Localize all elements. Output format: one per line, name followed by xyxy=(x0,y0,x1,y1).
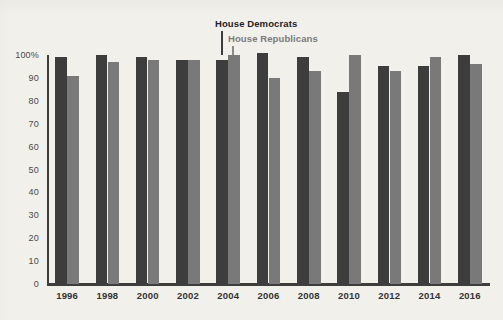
x-axis-tick-label: 2014 xyxy=(409,290,449,301)
bar-republicans-2000 xyxy=(148,60,160,284)
bar-chart: House Democrats House Republicans 100%90… xyxy=(0,0,503,320)
y-axis-tick-label: 0 xyxy=(34,279,39,289)
y-axis-tick-label: 30 xyxy=(29,210,39,220)
x-axis-tick-label: 2000 xyxy=(128,290,168,301)
bar-democrats-2000 xyxy=(136,57,148,284)
bars-layer xyxy=(47,55,490,284)
legend-leader-line-democrats xyxy=(221,31,223,55)
y-axis-tick-label: 70 xyxy=(29,119,39,129)
bar-democrats-1998 xyxy=(96,55,108,284)
x-axis-tick-label: 2012 xyxy=(369,290,409,301)
x-axis-tick-label: 1998 xyxy=(87,290,127,301)
x-axis-tick-label: 2016 xyxy=(450,290,490,301)
bar-democrats-2012 xyxy=(378,66,390,284)
y-axis-tick-label: 80 xyxy=(29,96,39,106)
bar-democrats-2004 xyxy=(216,60,228,284)
bar-democrats-2008 xyxy=(297,57,309,284)
legend-label-house-republicans: House Republicans xyxy=(228,33,318,44)
bar-republicans-1996 xyxy=(67,76,79,284)
bar-republicans-2012 xyxy=(390,71,402,284)
y-axis-tick-label: 20 xyxy=(29,233,39,243)
y-axis-tick-label: 100% xyxy=(15,50,39,60)
bar-republicans-2002 xyxy=(188,60,200,284)
legend-label-house-democrats: House Democrats xyxy=(215,18,297,29)
x-axis-tick-label: 2008 xyxy=(289,290,329,301)
bar-democrats-1996 xyxy=(55,57,67,284)
bar-republicans-2016 xyxy=(470,64,482,284)
y-axis-tick-label: 60 xyxy=(29,142,39,152)
y-axis-tick-label: 40 xyxy=(29,187,39,197)
bar-republicans-2008 xyxy=(309,71,321,284)
y-axis-tick-labels: 100%9080706050403020100 xyxy=(0,50,44,290)
bar-republicans-2004 xyxy=(228,55,240,284)
bar-democrats-2006 xyxy=(257,53,269,284)
bar-democrats-2010 xyxy=(337,92,349,284)
x-axis-tick-label: 2006 xyxy=(248,290,288,301)
x-axis-tick-label: 2010 xyxy=(329,290,369,301)
bar-democrats-2016 xyxy=(458,55,470,284)
x-axis-tick-label: 1996 xyxy=(47,290,87,301)
bar-democrats-2014 xyxy=(418,66,430,284)
x-axis-tick-labels: 1996199820002002200420062008201020122014… xyxy=(47,290,490,310)
bar-republicans-2006 xyxy=(269,78,281,284)
bar-republicans-2010 xyxy=(349,55,361,284)
bar-democrats-2002 xyxy=(176,60,188,284)
y-axis-tick-label: 10 xyxy=(29,256,39,266)
bar-republicans-1998 xyxy=(108,62,120,284)
y-axis-tick-label: 50 xyxy=(29,165,39,175)
x-axis-tick-label: 2002 xyxy=(168,290,208,301)
bar-republicans-2014 xyxy=(430,57,442,284)
y-axis-tick-label: 90 xyxy=(29,73,39,83)
x-axis-tick-label: 2004 xyxy=(208,290,248,301)
